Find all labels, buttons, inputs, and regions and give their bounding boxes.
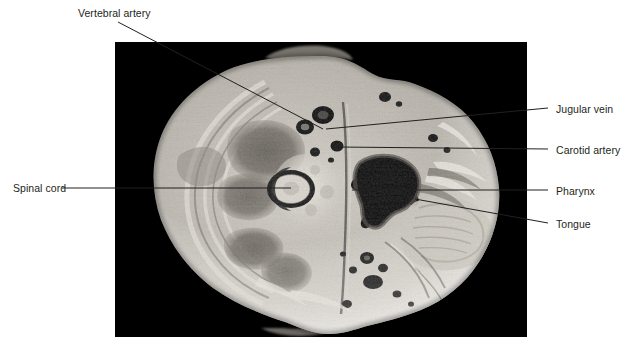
label-tongue: Tongue xyxy=(556,218,591,230)
anatomy-figure: Vertebral artery Spinal cord Jugular vei… xyxy=(0,0,628,347)
label-jugular-vein: Jugular vein xyxy=(556,103,613,115)
specimen-image xyxy=(115,42,527,337)
label-spinal-cord: Spinal cord xyxy=(13,182,66,194)
label-carotid-artery: Carotid artery xyxy=(556,144,620,156)
label-pharynx: Pharynx xyxy=(556,185,595,197)
cross-section-photograph xyxy=(115,42,527,337)
label-vertebral-artery: Vertebral artery xyxy=(78,7,151,19)
